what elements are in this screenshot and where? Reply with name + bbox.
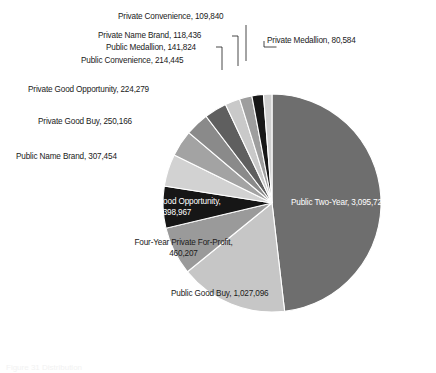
slice-label-private-convenience: Private Convenience, 109,840 xyxy=(118,12,224,23)
slice-label-public-name-brand: Public Name Brand, 307,454 xyxy=(16,152,117,163)
slice-label-private-name-brand: Private Name Brand, 118,436 xyxy=(98,31,201,42)
slice-label-public-two-year: Public Two-Year, 3,095,720 xyxy=(291,198,386,209)
leader-line-group xyxy=(216,25,277,70)
slice-label-public-good-opportunity-line1: Public Good Opportunity, xyxy=(133,197,220,206)
slice-label-public-good-opportunity-line2: 398,967 xyxy=(163,208,192,217)
slice-label-four-year-private-line2: 460,207 xyxy=(169,249,198,258)
slice-label-four-year-private-for-profit: Four-Year Private For-Profit, 460,207 xyxy=(121,238,246,259)
slice-label-public-good-opportunity: Public Good Opportunity, 398,967 xyxy=(118,197,236,218)
figure-caption: Figure 31 Distribution xyxy=(6,363,82,372)
leader-line-private-name-brand xyxy=(232,36,238,66)
slice-label-public-medallion: Public Medallion, 141,824 xyxy=(106,43,196,54)
slice-label-private-good-opportunity: Private Good Opportunity, 224,279 xyxy=(28,85,149,96)
leader-line-public-medallion xyxy=(216,47,222,70)
pie-chart xyxy=(0,0,436,373)
figure-container: Private Convenience, 109,840 Private Nam… xyxy=(0,0,436,373)
slice-label-private-medallion: Private Medallion, 80,584 xyxy=(267,36,356,47)
slice-label-public-good-buy: Public Good Buy, 1,027,096 xyxy=(171,289,268,300)
slice-label-private-good-buy: Private Good Buy, 250,166 xyxy=(38,117,132,128)
slice-label-public-convenience: Public Convenience, 214,445 xyxy=(81,56,183,67)
slice-label-four-year-private-line1: Four-Year Private For-Profit, xyxy=(134,238,232,247)
